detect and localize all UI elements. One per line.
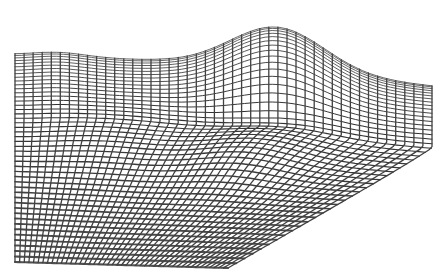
wireframe-surface-render bbox=[0, 0, 445, 278]
